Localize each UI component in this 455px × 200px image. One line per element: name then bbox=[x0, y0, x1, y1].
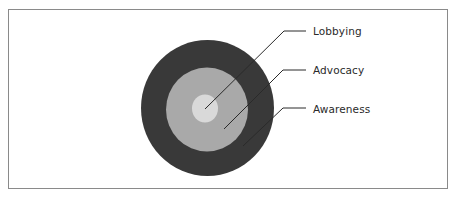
lobbying-label: Lobbying bbox=[313, 25, 362, 37]
advocacy-label: Advocacy bbox=[313, 64, 364, 76]
awareness-label: Awareness bbox=[313, 103, 370, 115]
concentric-circles-diagram bbox=[0, 0, 455, 200]
